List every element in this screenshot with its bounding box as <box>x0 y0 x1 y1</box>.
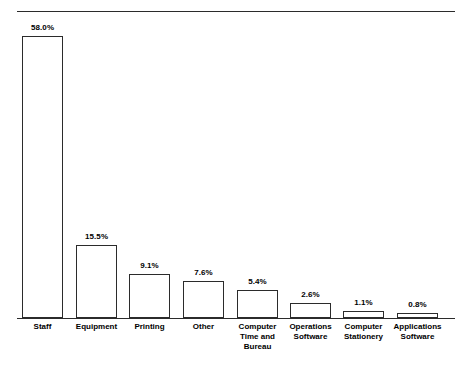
plot-area: 58.0%15.5%9.1%7.6%5.4%2.6%1.1%0.8% <box>0 0 465 318</box>
category-label-2: Equipment <box>67 322 126 332</box>
bar-value-label-4: 7.6% <box>183 268 224 277</box>
category-label-line: Printing <box>120 322 179 332</box>
category-label-4: Other <box>174 322 233 332</box>
bar-2 <box>76 245 117 318</box>
category-label-line: Operations <box>281 322 340 332</box>
category-label-8: ApplicationsSoftware <box>388 322 447 342</box>
category-label-line: Computer <box>228 322 287 332</box>
category-label-7: ComputerStationery <box>334 322 393 342</box>
bar-6 <box>290 303 331 318</box>
category-axis-labels: StaffEquipmentPrintingOtherComputerTime … <box>0 322 465 372</box>
category-label-6: OperationsSoftware <box>281 322 340 342</box>
bar-value-label-8: 0.8% <box>397 300 438 309</box>
bar-value-label-5: 5.4% <box>237 277 278 286</box>
category-label-line: Staff <box>13 322 72 332</box>
category-label-line: Time and <box>228 332 287 342</box>
category-axis-line <box>17 318 455 319</box>
category-label-5: ComputerTime andBureau <box>228 322 287 352</box>
bar-value-label-6: 2.6% <box>290 290 331 299</box>
category-label-1: Staff <box>13 322 72 332</box>
category-label-line: Stationery <box>334 332 393 342</box>
bar-4 <box>183 281 224 318</box>
bar-value-label-7: 1.1% <box>343 298 384 307</box>
category-label-line: Software <box>281 332 340 342</box>
bar-value-label-1: 58.0% <box>22 23 63 32</box>
bar-3 <box>129 274 170 318</box>
bar-value-label-3: 9.1% <box>129 261 170 270</box>
category-label-3: Printing <box>120 322 179 332</box>
category-label-line: Applications <box>388 322 447 332</box>
category-label-line: Other <box>174 322 233 332</box>
bar-1 <box>22 36 63 318</box>
bar-5 <box>237 290 278 318</box>
category-label-line: Software <box>388 332 447 342</box>
bar-chart: 58.0%15.5%9.1%7.6%5.4%2.6%1.1%0.8% Staff… <box>0 0 465 372</box>
bar-7 <box>343 311 384 318</box>
category-label-line: Computer <box>334 322 393 332</box>
category-label-line: Equipment <box>67 322 126 332</box>
category-label-line: Bureau <box>228 342 287 352</box>
bar-value-label-2: 15.5% <box>76 232 117 241</box>
